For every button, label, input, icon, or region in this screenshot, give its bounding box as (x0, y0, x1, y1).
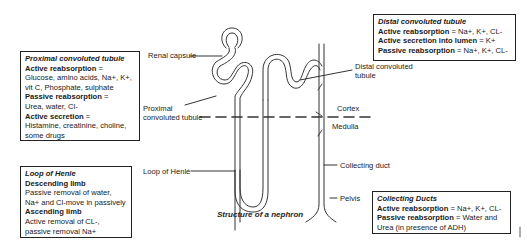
equals-sign: = (102, 92, 109, 101)
label-collecting-duct: Collecting duct (340, 161, 390, 170)
loop-descending-label: Descending limb (25, 179, 127, 189)
proximal-box-title: Proximal convoluted tubule (25, 54, 135, 64)
loop-of-henle-inner (240, 100, 263, 207)
leader-proximal (185, 96, 216, 105)
equals-sign: = (84, 112, 91, 121)
renal-capsule (222, 28, 243, 48)
label-distal-line1: Distal convoluted (355, 62, 413, 71)
label-renal-capsule: Renal capsule (148, 51, 196, 60)
loop-box-title: Loop of Henle (25, 169, 127, 179)
equals-sign: = (96, 64, 103, 73)
label-distal-line2: tubule (355, 71, 376, 80)
collecting-box-title: Collecting Ducts (377, 194, 506, 204)
collecting-info-box: Collecting Ducts Active reabsorption = N… (372, 191, 511, 234)
proximal-active-secretion-value: Histamine, creatinine, choline, some dru… (25, 121, 135, 140)
proximal-passive-reabsorption-value: Urea, water, Cl- (25, 102, 135, 112)
loop-ascending-value: Active removal of CL-, passive removal N… (25, 217, 127, 236)
proximal-active-secretion-label: Active secretion (25, 112, 84, 121)
distal-active-secretion-label: Active secretion into lumen (378, 36, 477, 45)
distal-passive-reabsorption-value: = Na+, K+, CL- (455, 46, 508, 55)
label-cortex: Cortex (337, 104, 359, 113)
diagram-caption: Structure of a nephron (217, 210, 303, 219)
distal-active-reabsorption-value: = Na+, K+, CL- (449, 27, 502, 36)
distal-info-box: Distal convoluted tubule Active reabsorp… (373, 14, 516, 61)
collecting-active-reabsorption-label: Active reabsorption (377, 204, 448, 213)
distal-active-reabsorption-label: Active reabsorption (378, 27, 449, 36)
loop-ascending-label: Ascending limb (25, 207, 127, 217)
collecting-passive-reabsorption-label: Passive reabsorption (377, 213, 454, 222)
collecting-duct (306, 44, 336, 222)
loop-info-box: Loop of Henle Descending limb Passive re… (20, 166, 132, 238)
loop-descending-value: Passive removal of water, Na+ and Cl-mov… (25, 188, 127, 207)
proximal-active-reabsorption-value: Glucose, amino acids, Na+, K+, vit C, Ph… (25, 73, 135, 92)
label-medulla: Medulla (332, 122, 359, 131)
label-pelvis: Pelvis (340, 194, 360, 203)
distal-active-secretion-value: = K+ (477, 36, 495, 45)
proximal-info-box: Proximal convoluted tubule Active reabso… (20, 51, 140, 141)
distal-box-title: Distal convoluted tubule (378, 17, 511, 27)
proximal-passive-reabsorption-label: Passive reabsorption (25, 92, 102, 101)
label-proximal-line1: Proximal (143, 104, 173, 113)
label-loop-of-henle: Loop of Henlé (143, 167, 190, 176)
label-proximal-line2: convoluted tubule (143, 113, 203, 122)
ascending-limb-outer (268, 59, 320, 100)
distal-passive-reabsorption-label: Passive reabsorption (378, 46, 455, 55)
collecting-active-reabsorption-value: = Na+, K+, CL- (448, 204, 501, 213)
proximal-active-reabsorption-label: Active reabsorption (25, 64, 96, 73)
